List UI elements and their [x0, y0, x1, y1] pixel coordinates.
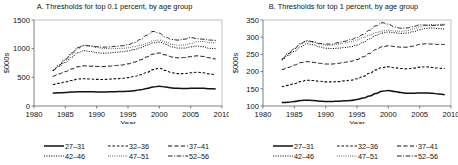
legend-label-52-56: 52–56	[418, 152, 438, 161]
x-tick-label: 1990	[317, 110, 334, 119]
series-line-27-31	[53, 86, 216, 93]
legend-label-47-51: 47–51	[129, 152, 149, 161]
x-tick-label: 1980	[255, 110, 272, 119]
plot-area: 1001502002503003501980198519901995200020…	[229, 14, 458, 124]
y-axis-title: $000s	[2, 52, 11, 73]
legend-label-42-46: 42–46	[65, 152, 85, 161]
y-tick-label: 150	[246, 85, 259, 94]
legend-label-52-56: 52–56	[189, 152, 209, 161]
y-tick-label: 1000	[13, 44, 30, 53]
x-tick-label: 2005	[411, 110, 428, 119]
x-axis-title: Year	[349, 119, 365, 124]
y-tick-label: 300	[246, 33, 259, 42]
chart-legend: 27–3132–3637–4142–4647–5152–56	[0, 138, 229, 164]
y-tick-label: 1500	[13, 16, 30, 25]
x-tick-label: 1995	[120, 110, 137, 119]
x-tick-label: 1985	[57, 110, 74, 119]
y-tick-label: 200	[246, 67, 259, 76]
series-line-37-41	[282, 44, 445, 70]
series-line-32-36	[53, 68, 216, 84]
x-tick-label: 1990	[88, 110, 105, 119]
y-axis-title: $000s	[231, 52, 240, 73]
legend-label-27-31: 27–31	[294, 142, 314, 151]
chart-legend: 27–3132–3637–4142–4647–5152–56	[229, 138, 458, 164]
plot-area: 0500100015001980198519901995200020052010…	[0, 14, 229, 124]
x-tick-label: 1985	[286, 110, 303, 119]
panel-title: B. Thresholds for top 1 percent, by age …	[229, 2, 458, 11]
legend-label-47-51: 47–51	[358, 152, 378, 161]
legend-label-37-41: 37–41	[418, 142, 438, 151]
figure-container: A. Thresholds for top 0.1 percent, by ag…	[0, 0, 458, 165]
legend-label-42-46: 42–46	[294, 152, 314, 161]
legend-label-37-41: 37–41	[189, 142, 209, 151]
legend-label-27-31: 27–31	[65, 142, 85, 151]
series-line-42-46	[282, 28, 445, 60]
panel-a: A. Thresholds for top 0.1 percent, by ag…	[0, 0, 229, 165]
series-line-27-31	[282, 91, 445, 103]
panel-title: A. Thresholds for top 0.1 percent, by ag…	[0, 2, 229, 11]
x-tick-label: 1980	[26, 110, 43, 119]
x-tick-label: 2000	[151, 110, 168, 119]
x-tick-label: 2010	[443, 110, 458, 119]
series-line-32-36	[282, 67, 445, 87]
series-line-52-56	[53, 31, 216, 70]
legend-label-32-36: 32–36	[129, 142, 149, 151]
x-tick-label: 2000	[380, 110, 397, 119]
x-axis-title: Year	[120, 119, 136, 124]
y-tick-label: 500	[17, 73, 30, 82]
x-tick-label: 1995	[349, 110, 366, 119]
y-tick-label: 250	[246, 50, 259, 59]
legend-label-32-36: 32–36	[358, 142, 378, 151]
x-tick-label: 2005	[182, 110, 199, 119]
x-tick-label: 2010	[214, 110, 229, 119]
series-line-47-51	[53, 40, 216, 70]
y-tick-label: 350	[246, 16, 259, 25]
panel-b: B. Thresholds for top 1 percent, by age …	[229, 0, 458, 165]
